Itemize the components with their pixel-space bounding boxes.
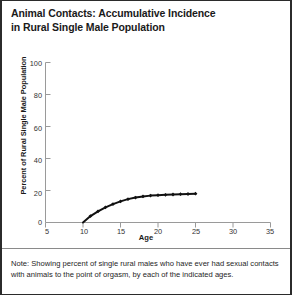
data-point-marker [171, 193, 175, 197]
data-point-marker [156, 193, 160, 197]
data-point-marker [186, 192, 190, 196]
data-point-marker [149, 194, 153, 198]
y-tick-label-80: 80 [16, 91, 42, 100]
chart-card: Animal Contacts: Accumulative Incidence … [0, 0, 292, 295]
y-axis-ticks [46, 63, 51, 191]
chart-title-line-1: Animal Contacts: Accumulative Incidence [11, 7, 279, 21]
data-markers-accumulative-incidence [89, 192, 198, 218]
data-point-marker [141, 195, 145, 199]
data-line-accumulative-incidence [83, 194, 196, 223]
y-tick-label-20: 20 [16, 189, 42, 198]
data-point-marker [134, 196, 138, 200]
y-tick-label-0: 0 [16, 218, 42, 227]
chart-title-line-2: in Rural Single Male Population [11, 21, 279, 35]
data-point-marker [194, 192, 198, 196]
chart-note: Note: Showing percent of single rural ma… [11, 259, 283, 280]
chart-title: Animal Contacts: Accumulative Incidence … [11, 7, 279, 34]
note-divider [2, 248, 290, 249]
data-point-marker [179, 192, 183, 196]
chart-plot-area: Percent of Rural Single Male Population … [2, 47, 290, 245]
x-axis-label: Age [2, 233, 290, 242]
data-point-marker [164, 193, 168, 197]
y-tick-label-40: 40 [16, 156, 42, 165]
y-tick-label-100: 100 [16, 59, 42, 68]
y-tick-label-60: 60 [16, 124, 42, 133]
chart-svg [2, 47, 290, 245]
